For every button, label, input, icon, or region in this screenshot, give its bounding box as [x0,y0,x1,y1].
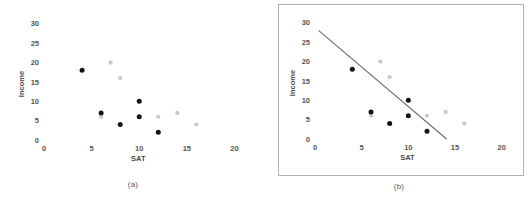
data-point-light [425,114,429,118]
data-point-dark [350,67,355,72]
data-point-dark [387,121,392,126]
data-point-light [378,59,382,63]
x-axis-tick-label: 0 [42,144,46,153]
y-axis-tick-label: 5 [35,116,39,125]
regression-trendline [319,31,447,139]
x-axis-tick-label: 10 [404,143,412,152]
plot-area-b: 05101520253005101520SATIncome [278,4,524,176]
figure-panel-a: 05101520253005101520SATIncome (a) [0,0,266,205]
y-axis-tick-label: 25 [302,38,310,47]
x-axis-tick-label: 20 [497,143,505,152]
data-point-light [156,115,160,119]
x-axis-tick-label: 20 [230,144,238,153]
data-point-dark [406,113,411,118]
y-axis-tick-label: 0 [35,136,39,145]
x-axis-tick-label: 5 [360,143,364,152]
data-point-dark [156,130,161,135]
y-axis-tick-label: 30 [302,18,310,27]
scatter-plot-a: 05101520253005101520SATIncome [8,4,258,172]
data-point-dark [80,68,85,73]
figure-panel-b: 05101520253005101520SATIncome (b) [266,0,532,205]
caption-b: (b) [266,182,532,191]
figure-container: 05101520253005101520SATIncome (a) 051015… [0,0,532,205]
y-axis-tick-label: 20 [31,58,39,67]
x-axis-title: SAT [131,154,146,163]
y-axis-tick-label: 20 [302,57,310,66]
data-point-dark [425,129,430,134]
y-axis-tick-label: 30 [31,19,39,28]
caption-a: (a) [0,180,266,189]
y-axis-title: Income [17,71,26,97]
data-point-light [118,76,122,80]
data-point-dark [137,114,142,119]
data-point-light [194,122,198,126]
y-axis-tick-label: 15 [31,78,39,87]
x-axis-tick-label: 10 [135,144,143,153]
data-point-dark [118,122,123,127]
y-axis-tick-label: 10 [302,96,310,105]
scatter-plot-b: 05101520253005101520SATIncome [279,5,523,175]
data-point-light [109,60,113,64]
x-axis-title: SAT [400,153,415,162]
y-axis-tick-label: 0 [306,135,310,144]
data-point-light [175,111,179,115]
data-point-light [444,110,448,114]
y-axis-tick-label: 15 [302,77,310,86]
data-point-dark [99,110,104,115]
plot-area-a: 05101520253005101520SATIncome [8,4,258,172]
data-point-dark [406,98,411,103]
x-axis-tick-label: 15 [183,144,191,153]
y-axis-tick-label: 25 [31,39,39,48]
data-point-dark [137,99,142,104]
y-axis-title: Income [288,70,297,96]
data-point-dark [369,109,374,114]
y-axis-tick-label: 10 [31,97,39,106]
data-point-light [462,121,466,125]
x-axis-tick-label: 15 [451,143,459,152]
data-point-light [388,75,392,79]
x-axis-tick-label: 5 [90,144,94,153]
y-axis-tick-label: 5 [306,115,310,124]
x-axis-tick-label: 0 [313,143,317,152]
